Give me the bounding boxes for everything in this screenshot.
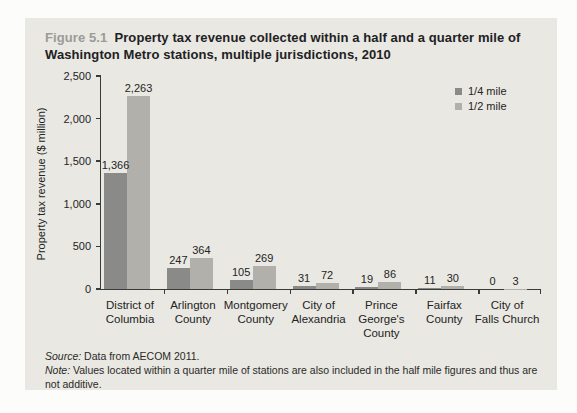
bar-value-label: 3 (513, 275, 519, 287)
x-axis-tick (164, 289, 166, 294)
figure-number: Figure 5.1 (45, 30, 107, 45)
bar-half-mile (190, 258, 213, 289)
bar-group-arlington-county: 247 364 Arlington County (164, 77, 227, 289)
y-axis-title: Property tax revenue ($ million) (27, 77, 55, 290)
bar-quarter-mile (230, 280, 253, 289)
x-axis-tick (227, 289, 229, 294)
plot-area: 0 500 1,000 1,500 2,000 2,500 1,366 2,26… (100, 77, 540, 290)
bar-group-city-of-falls-church: 0 3 City of Falls Church (478, 77, 541, 289)
bar-value-label: 19 (361, 273, 373, 285)
bar-half-mile (127, 96, 150, 289)
y-axis-tick: 2,500 (63, 70, 101, 82)
y-axis-tick: 1,500 (63, 155, 101, 167)
bar-quarter-mile (104, 173, 127, 289)
bar-value-label: 72 (321, 269, 333, 281)
bar-value-label: 2,263 (125, 82, 153, 94)
x-axis-category-label: District of Columbia (106, 298, 155, 326)
y-tick-label: 1,000 (63, 198, 91, 210)
y-tick-label: 1,500 (63, 155, 91, 167)
bar-quarter-mile (355, 287, 378, 289)
y-tick-label: 2,500 (63, 70, 91, 82)
x-axis-tick (415, 289, 417, 294)
figure-caption: Figure 5.1Property tax revenue collected… (45, 29, 537, 63)
x-axis-category-label: City of Falls Church (475, 298, 540, 326)
bar-half-mile (253, 266, 276, 289)
x-axis-tick (540, 289, 542, 294)
bar-value-label: 30 (447, 272, 459, 284)
y-tick-label: 2,000 (63, 113, 91, 125)
bar-quarter-mile (167, 268, 190, 289)
bar-quarter-mile (418, 288, 441, 289)
bar-value-label: 31 (298, 272, 310, 284)
x-axis-tick (352, 289, 354, 294)
bar-quarter-mile (293, 286, 316, 289)
bar-group-montgomery-county: 105 269 Montgomery County (227, 77, 290, 289)
y-axis-tick: 0 (85, 283, 101, 295)
figure-panel: Figure 5.1Property tax revenue collected… (25, 18, 557, 390)
bar-value-label: 1,366 (102, 159, 130, 171)
bar-value-label: 11 (424, 274, 435, 286)
scanned-page: { "figure": { "label": "Figure 5.1", "ti… (0, 0, 577, 413)
bar-value-label: 247 (169, 254, 187, 266)
y-axis-tick: 500 (73, 240, 101, 252)
y-tick-label: 500 (73, 240, 91, 252)
bar-group-fairfax-county: 11 30 Fairfax County (415, 77, 478, 289)
bar-group-city-of-alexandria: 31 72 City of Alexandria (290, 77, 353, 289)
source-text: Data from AECOM 2011. (84, 350, 199, 362)
figure-title: Property tax revenue collected within a … (45, 30, 521, 62)
x-axis-category-label: Montgomery County (224, 298, 288, 326)
bar-value-label: 86 (384, 268, 396, 280)
bar-half-mile (378, 282, 401, 289)
note-text: Values located within a quarter mile of … (45, 364, 537, 390)
bar-value-label: 269 (255, 252, 273, 264)
x-axis-category-label: Arlington County (170, 298, 215, 326)
bar-value-label: 364 (192, 244, 210, 256)
x-axis-tick (290, 289, 292, 294)
note-label: Note: (45, 364, 70, 376)
source-line: Source: Data from AECOM 2011. (45, 349, 547, 363)
x-axis-category-label: Prince George's County (358, 298, 404, 340)
bar-value-label: 105 (232, 266, 250, 278)
x-axis-tick (478, 289, 480, 294)
bar-group-district-of-columbia: 1,366 2,263 District of Columbia (101, 77, 164, 289)
bar-group-prince-georges-county: 19 86 Prince George's County (352, 77, 415, 289)
bar-half-mile (316, 283, 339, 289)
source-label: Source: (45, 350, 81, 362)
x-axis-category-label: City of Alexandria (291, 298, 345, 326)
y-tick-label: 0 (85, 283, 91, 295)
figure-notes: Source: Data from AECOM 2011. Note: Valu… (45, 349, 547, 391)
note-line: Note: Values located within a quarter mi… (45, 363, 547, 391)
y-axis-tick: 1,000 (63, 198, 101, 210)
bar-value-label: 0 (490, 275, 496, 287)
bar-half-mile (441, 286, 464, 289)
x-axis-category-label: Fairfax County (426, 298, 462, 326)
y-axis-tick: 2,000 (63, 113, 101, 125)
